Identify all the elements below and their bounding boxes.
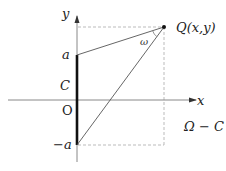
angle-arc-omega <box>153 31 157 37</box>
point-q <box>162 25 166 29</box>
x-axis-label: x <box>197 93 205 108</box>
point-q-label: Q(x,y) <box>176 20 216 35</box>
line-q-to-a <box>77 27 164 55</box>
region-label: Ω − C <box>183 119 224 134</box>
diagram-canvas: y x Q(x,y) a −a C O ω Ω − C <box>0 0 226 171</box>
neg-a-label: −a <box>53 137 72 152</box>
y-axis-label: y <box>61 6 70 21</box>
a-label: a <box>62 47 70 62</box>
omega-label: ω <box>140 36 148 47</box>
line-q-to-neg-a <box>77 27 164 145</box>
c-label: C <box>60 78 70 93</box>
origin-label: O <box>62 103 73 118</box>
